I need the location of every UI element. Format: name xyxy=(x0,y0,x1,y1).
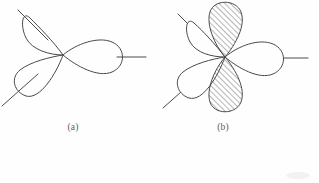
page-artifact-smudge xyxy=(286,172,310,179)
panel-caption-b: (b) xyxy=(208,122,238,132)
figure-canvas xyxy=(0,0,319,183)
figure-background xyxy=(0,0,319,183)
panel-caption-a: (a) xyxy=(58,122,88,132)
